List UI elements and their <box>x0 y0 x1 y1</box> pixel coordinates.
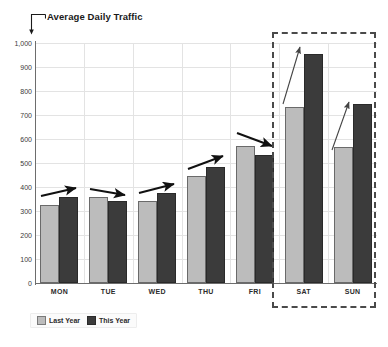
bar-fri-last-year <box>236 146 255 283</box>
bar-mon-this-year <box>59 197 78 283</box>
legend-item-last-year: Last Year <box>37 316 80 325</box>
weekend-highlight-box <box>272 32 376 308</box>
bar-mon-last-year <box>40 205 59 283</box>
legend-swatch-this-year <box>87 316 96 325</box>
x-label-mon: MON <box>51 288 68 295</box>
x-label-thu: THU <box>198 288 213 295</box>
x-label-fri: FRI <box>249 288 261 295</box>
bar-tue-this-year <box>108 201 127 283</box>
legend-label-this-year: This Year <box>99 317 130 324</box>
bar-thu-last-year <box>187 176 206 283</box>
x-label-wed: WED <box>149 288 166 295</box>
bar-tue-last-year <box>89 197 108 283</box>
bar-wed-last-year <box>138 201 157 283</box>
legend-label-last-year: Last Year <box>49 317 80 324</box>
bar-thu-this-year <box>206 167 225 283</box>
chart-root: Average Daily Traffic 010020030040050060… <box>0 0 388 347</box>
legend-item-this-year: This Year <box>87 316 130 325</box>
legend-swatch-last-year <box>37 316 46 325</box>
x-label-tue: TUE <box>101 288 116 295</box>
chart-legend: Last Year This Year <box>30 313 137 328</box>
bar-wed-this-year <box>157 193 176 283</box>
